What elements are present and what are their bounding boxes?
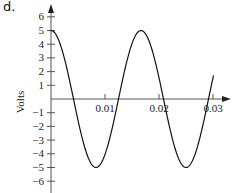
y-tick-label: −2 (32, 120, 44, 132)
y-axis-arrow-icon (48, 4, 54, 13)
y-tick-label: 4 (39, 38, 45, 50)
y-tick-label: 3 (39, 51, 45, 63)
y-tick-label: 6 (39, 10, 45, 22)
sine-wave-chart: −6−5−4−3−2−11234560.010.020.03 Volts (0, 0, 235, 193)
y-tick-label: 1 (39, 79, 45, 91)
y-tick-label: 2 (39, 65, 45, 77)
x-axis-arrow-icon (222, 96, 231, 102)
y-tick-label: −1 (32, 106, 44, 118)
y-tick-label: −3 (32, 134, 44, 146)
y-tick-label: 5 (39, 24, 45, 36)
x-tick-label: 0.01 (95, 102, 114, 114)
y-tick-label: −5 (32, 161, 44, 173)
y-tick-label: −4 (32, 147, 44, 159)
y-axis-label: Volts (14, 91, 26, 113)
axes (48, 4, 231, 193)
y-tick-label: −6 (32, 175, 44, 187)
